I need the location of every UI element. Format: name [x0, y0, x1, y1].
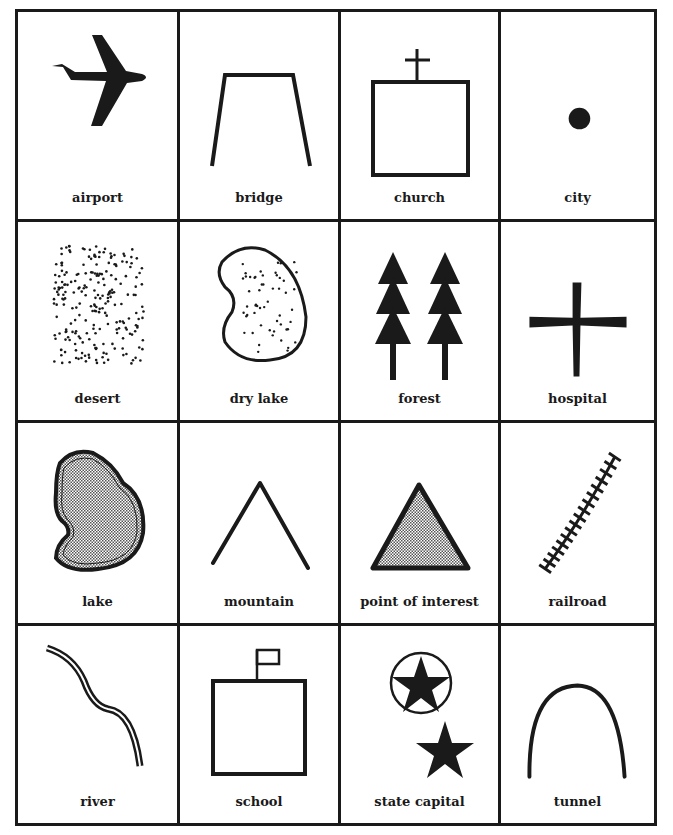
shaded-blob-icon [18, 423, 177, 588]
cell-hospital: hospital [501, 222, 654, 423]
symbol-label: airport [18, 190, 177, 205]
cell-bridge: bridge [180, 12, 341, 222]
cell-railroad: railroad [501, 423, 654, 626]
symbol-label: dry lake [180, 391, 338, 406]
cell-river: river [18, 626, 180, 823]
flag-building-icon [180, 626, 338, 791]
cross-icon [501, 222, 654, 387]
cell-airport: airport [18, 12, 180, 222]
dotted-blob-icon [180, 222, 338, 387]
symbol-label: hospital [501, 391, 654, 406]
airplane-icon [18, 12, 177, 177]
symbol-label: tunnel [501, 794, 654, 809]
cell-mountain: mountain [180, 423, 341, 626]
arch-icon [501, 626, 654, 791]
double-wavy-line-icon [18, 626, 177, 791]
symbol-label: desert [18, 391, 177, 406]
cell-dry-lake: dry lake [180, 222, 341, 423]
cell-desert: desert [18, 222, 180, 423]
cell-state-capital: state capital [341, 626, 501, 823]
symbol-label: school [180, 794, 338, 809]
peak-icon [180, 423, 338, 588]
symbol-label: forest [341, 391, 498, 406]
shaded-triangle-icon [341, 423, 498, 588]
symbol-label: bridge [180, 190, 338, 205]
track-icon [501, 423, 654, 588]
trees-icon [341, 222, 498, 387]
cell-forest: forest [341, 222, 501, 423]
symbol-label: point of interest [341, 594, 498, 609]
symbol-label: railroad [501, 594, 654, 609]
cell-point-of-interest: point of interest [341, 423, 501, 626]
church-icon [341, 12, 498, 177]
symbol-label: state capital [341, 794, 498, 809]
map-symbols-grid: airport bridge church city desert dry la [15, 9, 657, 826]
cell-tunnel: tunnel [501, 626, 654, 823]
symbol-label: city [501, 190, 654, 205]
cell-city: city [501, 12, 654, 222]
symbol-label: church [341, 190, 498, 205]
cell-church: church [341, 12, 501, 222]
symbol-label: mountain [180, 594, 338, 609]
dot-icon [501, 12, 654, 177]
bridge-icon [180, 12, 338, 177]
star-icon [341, 626, 498, 791]
cell-lake: lake [18, 423, 180, 626]
dotted-rectangle-icon [18, 222, 177, 387]
cell-school: school [180, 626, 341, 823]
symbol-label: lake [18, 594, 177, 609]
symbol-label: river [18, 794, 177, 809]
